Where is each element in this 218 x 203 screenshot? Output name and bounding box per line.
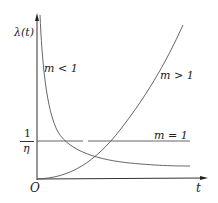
m-lt-1-curve <box>40 15 190 166</box>
ref-denominator: η <box>23 142 30 155</box>
origin-label: O <box>30 181 40 195</box>
m-gt-1-label: m > 1 <box>160 69 194 82</box>
m-lt-1-label: m < 1 <box>44 62 78 75</box>
x-axis <box>37 178 203 179</box>
m-eq-1-label: m = 1 <box>154 129 188 142</box>
x-axis-arrow-icon <box>200 176 208 180</box>
hazard-rate-chart: λ(t) m < 1 m > 1 m = 1 1 η O t <box>0 0 218 203</box>
ref-numerator: 1 <box>24 127 31 140</box>
x-axis-label: t <box>196 181 201 195</box>
m-gt-1-curve <box>37 25 183 179</box>
y-axis-label: λ(t) <box>14 26 34 39</box>
y-axis-arrow-icon <box>35 13 39 21</box>
